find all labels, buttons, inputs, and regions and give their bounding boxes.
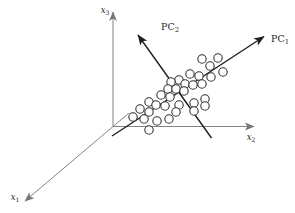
data-point bbox=[198, 80, 206, 88]
data-point bbox=[186, 70, 194, 78]
data-point bbox=[190, 99, 198, 107]
data-point bbox=[164, 85, 172, 93]
data-point bbox=[165, 115, 173, 123]
data-point bbox=[161, 102, 169, 110]
data-point bbox=[195, 72, 203, 80]
data-point bbox=[219, 68, 227, 76]
axes-and-pc-lines bbox=[25, 12, 264, 201]
data-point bbox=[201, 102, 209, 110]
x1-label: x1 bbox=[11, 192, 20, 203]
data-point bbox=[198, 55, 206, 63]
pc2-label: PC2 bbox=[161, 21, 179, 34]
data-point bbox=[152, 101, 160, 109]
data-point bbox=[214, 54, 222, 62]
data-point bbox=[129, 113, 137, 121]
x3-label: x3 bbox=[101, 5, 110, 16]
figure-canvas: x3x2x1PC2PC1 bbox=[0, 0, 295, 213]
data-point-cluster bbox=[129, 54, 227, 134]
pc1-label: PC1 bbox=[271, 33, 289, 46]
pca-scatter-diagram: x3x2x1PC2PC1 bbox=[0, 0, 295, 213]
data-point bbox=[172, 108, 180, 116]
data-point bbox=[145, 126, 153, 134]
data-point bbox=[157, 91, 165, 99]
data-point bbox=[207, 73, 215, 81]
data-point bbox=[189, 81, 197, 89]
data-point bbox=[172, 85, 180, 93]
data-point bbox=[153, 117, 161, 125]
data-point bbox=[190, 107, 198, 115]
data-point bbox=[206, 62, 214, 70]
data-point bbox=[166, 93, 174, 101]
data-point bbox=[180, 87, 188, 95]
data-point bbox=[136, 105, 144, 113]
x2-label: x2 bbox=[247, 132, 256, 143]
x1-axis bbox=[25, 113, 129, 201]
data-point bbox=[140, 115, 148, 123]
